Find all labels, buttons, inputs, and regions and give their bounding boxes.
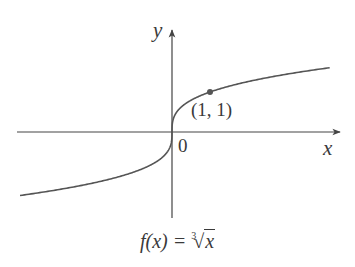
caption-prefix: f(x) = bbox=[140, 230, 191, 252]
function-caption: f(x) = 3√x bbox=[140, 230, 215, 253]
y-axis-label: y bbox=[153, 18, 162, 43]
radicand: x bbox=[204, 229, 215, 252]
cube-root-symbol: 3√x bbox=[191, 230, 215, 253]
radical-index: 3 bbox=[191, 230, 196, 241]
x-axis-label: x bbox=[323, 136, 332, 161]
graph-canvas bbox=[0, 0, 355, 267]
point-label: (1, 1) bbox=[191, 99, 232, 121]
point-1-1-marker bbox=[207, 89, 213, 95]
origin-label: 0 bbox=[178, 135, 188, 157]
